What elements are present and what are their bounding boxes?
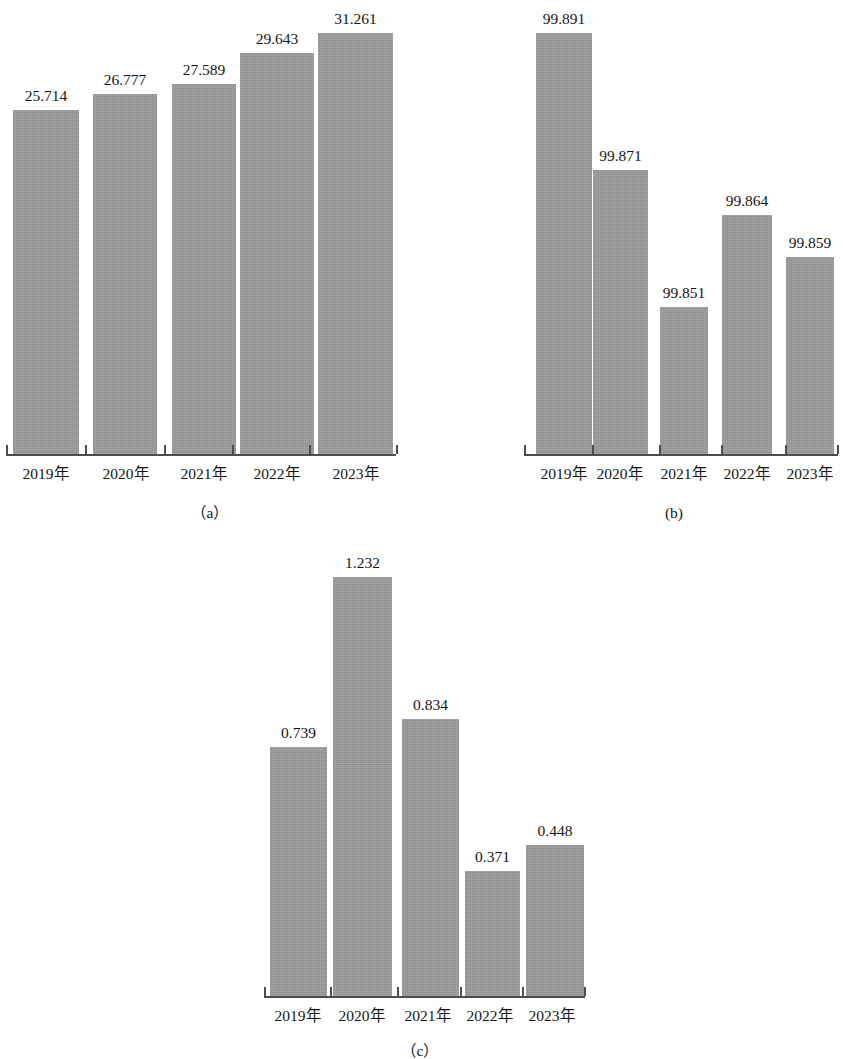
chart-panel-b: 99.89199.87199.85199.86499.859 (b) 2019年… <box>510 0 838 535</box>
bar-value-label: 1.232 <box>318 555 408 571</box>
x-axis-tick <box>460 987 462 996</box>
x-axis-category-label: 2022年 <box>237 466 317 482</box>
x-axis-tick <box>164 445 166 454</box>
chart-panel-c: 0.7391.2320.8340.3710.448 （c） 2019年2020年… <box>250 545 590 1054</box>
x-axis-tick <box>837 445 839 454</box>
x-axis-tick <box>6 445 8 454</box>
x-axis-tick <box>330 987 332 996</box>
bar <box>318 33 393 456</box>
plot-area-a: 25.71426.77727.58929.64331.261 <box>0 0 420 456</box>
bar-value-label: 0.448 <box>510 823 600 839</box>
x-axis-category-label: 2019年 <box>532 466 596 482</box>
x-axis-tick <box>721 445 723 454</box>
bar <box>465 871 520 998</box>
x-axis-category-label: 2023年 <box>520 1008 584 1024</box>
bar <box>786 257 834 456</box>
x-axis-tick <box>397 987 399 996</box>
x-axis-category-label: 2021年 <box>652 466 716 482</box>
bar-value-label: 99.859 <box>765 235 843 251</box>
bar <box>172 84 236 456</box>
x-axis-line-b <box>524 454 838 456</box>
x-axis-category-label: 2020年 <box>588 466 652 482</box>
bar-value-label: 99.864 <box>702 193 792 209</box>
x-axis-category-label: 2019年 <box>6 466 86 482</box>
x-axis-category-label: 2020年 <box>86 466 166 482</box>
x-axis-tick <box>785 445 787 454</box>
bar <box>13 110 79 456</box>
bar <box>593 170 648 456</box>
bar <box>526 845 584 998</box>
x-axis-tick <box>659 445 661 454</box>
x-axis-category-label: 2023年 <box>778 466 842 482</box>
figure-caption-a: （a） <box>0 505 420 521</box>
x-axis-tick <box>85 445 87 454</box>
bar-value-label: 99.851 <box>639 285 729 301</box>
x-axis-tick <box>264 987 266 996</box>
plot-area-b: 99.89199.87199.85199.86499.859 <box>510 0 838 456</box>
x-axis-category-label: 2022年 <box>458 1008 522 1024</box>
x-axis-category-label: 2022年 <box>715 466 779 482</box>
bar <box>722 215 772 456</box>
bar-value-label: 29.643 <box>232 31 322 47</box>
bar <box>333 577 392 998</box>
bar-value-label: 0.739 <box>254 725 344 741</box>
bar-value-label: 99.891 <box>519 11 609 27</box>
x-axis-tick <box>309 445 311 454</box>
x-axis-tick <box>396 445 398 454</box>
bar <box>660 307 708 456</box>
x-axis-line-c <box>264 996 585 998</box>
x-axis-category-label: 2021年 <box>164 466 244 482</box>
x-axis-line-a <box>6 454 396 456</box>
bar-value-label: 25.714 <box>1 88 91 104</box>
bar <box>270 747 327 998</box>
x-axis-tick <box>592 445 594 454</box>
chart-panel-a: 25.71426.77727.58929.64331.261 （a） 2019年… <box>0 0 420 535</box>
bar-value-label: 31.261 <box>311 11 401 27</box>
x-axis-tick <box>584 987 586 996</box>
x-axis-tick <box>524 445 526 454</box>
x-axis-category-label: 2023年 <box>316 466 396 482</box>
x-axis-category-label: 2019年 <box>266 1008 330 1024</box>
bar <box>93 94 157 456</box>
figure-caption-c: （c） <box>250 1043 590 1059</box>
plot-area-c: 0.7391.2320.8340.3710.448 <box>250 545 590 998</box>
x-axis-tick <box>232 445 234 454</box>
bar <box>536 33 592 456</box>
bar-value-label: 0.834 <box>386 697 476 713</box>
bar <box>240 53 314 456</box>
bar-value-label: 26.777 <box>80 72 170 88</box>
x-axis-tick <box>522 987 524 996</box>
x-axis-category-label: 2020年 <box>330 1008 394 1024</box>
figure-caption-b: (b) <box>510 505 838 521</box>
x-axis-category-label: 2021年 <box>396 1008 460 1024</box>
bar-value-label: 27.589 <box>159 62 249 78</box>
bar-value-label: 0.371 <box>448 849 538 865</box>
bar-value-label: 99.871 <box>576 148 666 164</box>
